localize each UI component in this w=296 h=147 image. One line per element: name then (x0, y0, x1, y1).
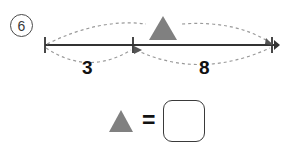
number-line-diagram (0, 0, 296, 100)
right-span-label: 8 (199, 58, 210, 77)
dotted-arc-upper-right (182, 23, 271, 43)
right-arrowhead-icon (274, 40, 280, 50)
gray-triangle-icon (108, 109, 134, 133)
equation-row: = (108, 98, 205, 144)
equals-sign: = (142, 109, 155, 134)
left-span-label: 3 (82, 58, 93, 77)
arrowhead-lower-middle-icon (134, 46, 142, 54)
worksheet-problem: 6 3 8 = (0, 0, 296, 147)
dotted-arc-upper-left (47, 23, 146, 44)
answer-input-box[interactable] (163, 100, 205, 142)
gray-triangle-icon (149, 16, 177, 40)
